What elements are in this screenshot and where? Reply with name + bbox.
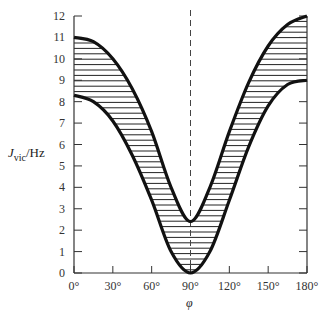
x-axis-label: φ: [186, 296, 193, 311]
y-tick-label: 10: [53, 52, 65, 66]
y-tick-label: 2: [59, 223, 65, 237]
y-tick-label: 4: [59, 180, 65, 194]
y-axis-label: Jvic/Hz: [8, 145, 45, 163]
x-tick-label: 150°: [257, 279, 280, 293]
x-tick-label: 30°: [104, 279, 121, 293]
x-tick-label: 180°: [296, 279, 319, 293]
y-tick-label: 9: [59, 73, 65, 87]
y-tick-label: 5: [59, 159, 65, 173]
y-tick-label: 1: [59, 245, 65, 259]
y-tick-label: 0: [59, 266, 65, 280]
y-tick-label: 7: [59, 116, 65, 130]
x-tick-label: 120°: [218, 279, 241, 293]
y-tick-label: 11: [53, 30, 65, 44]
x-tick-label: 60°: [143, 279, 160, 293]
x-tick-label: 0°: [69, 279, 80, 293]
y-tick-label: 6: [59, 138, 65, 152]
x-tick-label: 90°: [182, 279, 199, 293]
chart: 01234567891011120°30°60°90°120°150°180°: [0, 0, 327, 318]
y-tick-label: 12: [53, 9, 65, 23]
y-tick-label: 3: [59, 202, 65, 216]
y-tick-label: 8: [59, 95, 65, 109]
